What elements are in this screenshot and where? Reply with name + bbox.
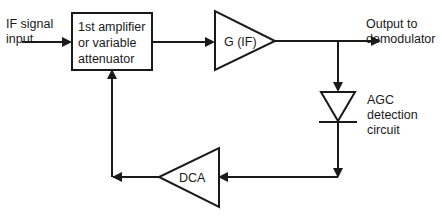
detector-label-line2: detection — [367, 108, 418, 122]
amplifier-block-label-line3: attenuator — [78, 52, 134, 66]
amplifier-block-label-line1: 1st amplifier — [78, 20, 145, 34]
detector-label-line3: circuit — [367, 123, 400, 137]
diode-symbol-triangle — [321, 92, 355, 121]
input-arrowhead-icon — [62, 37, 72, 47]
dc-amplifier: DCA — [159, 148, 219, 207]
detector-diode — [319, 92, 357, 122]
gain-stage: G (IF) — [215, 11, 275, 70]
diagram-canvas: IF signal input 1st amplifier or variabl… — [0, 0, 442, 216]
amplifier-block-label-line2: or variable — [78, 36, 136, 50]
junction-to-detector-wire — [333, 41, 343, 92]
gain-stage-label: G (IF) — [224, 35, 257, 49]
output-label-line1: Output to — [366, 17, 417, 31]
feedback-corner-arrowhead-icon — [112, 172, 122, 182]
gain-input-arrowhead-icon — [205, 37, 215, 47]
output-label-line2: demodulator — [366, 32, 436, 46]
detector-to-dca-wire — [218, 122, 343, 182]
detector-label-line1: AGC — [367, 93, 394, 107]
feedback-wire — [107, 69, 159, 182]
agc-block-diagram: IF signal input 1st amplifier or variabl… — [0, 0, 442, 216]
detector-input-arrowhead-icon — [333, 82, 343, 92]
dc-amplifier-label: DCA — [179, 171, 206, 185]
input-label-line1: IF signal — [6, 17, 53, 31]
amplifier-block: 1st amplifier or variable attenuator — [72, 13, 152, 70]
amplifier-to-gain-wire — [152, 37, 215, 47]
input-label-line2: input — [6, 32, 34, 46]
